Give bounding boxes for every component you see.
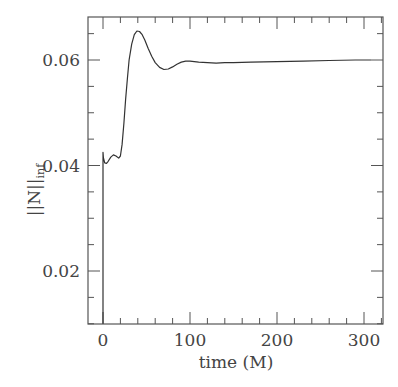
y-tick-label: 0.06 <box>42 50 80 70</box>
x-tick-label: 0 <box>98 330 109 350</box>
y-axis-label: ||N||inf <box>24 163 47 216</box>
x-tick-label: 200 <box>261 330 293 350</box>
x-tick-label: 300 <box>348 330 380 350</box>
data-line <box>103 31 371 324</box>
y-axis-label-main: ||N|| <box>24 178 44 216</box>
line-chart: 01002003000.020.040.06 time (M) ||N||inf <box>0 0 398 387</box>
svg-text:||N||inf: ||N||inf <box>24 163 47 216</box>
y-tick-label: 0.04 <box>42 156 80 176</box>
x-axis-label: time (M) <box>199 352 274 372</box>
data-series <box>103 31 371 324</box>
y-axis-label-subscript: inf <box>34 163 47 179</box>
y-tick-label: 0.02 <box>42 261 80 281</box>
tick-labels: 01002003000.020.040.06 <box>42 50 380 350</box>
x-tick-label: 100 <box>174 330 206 350</box>
